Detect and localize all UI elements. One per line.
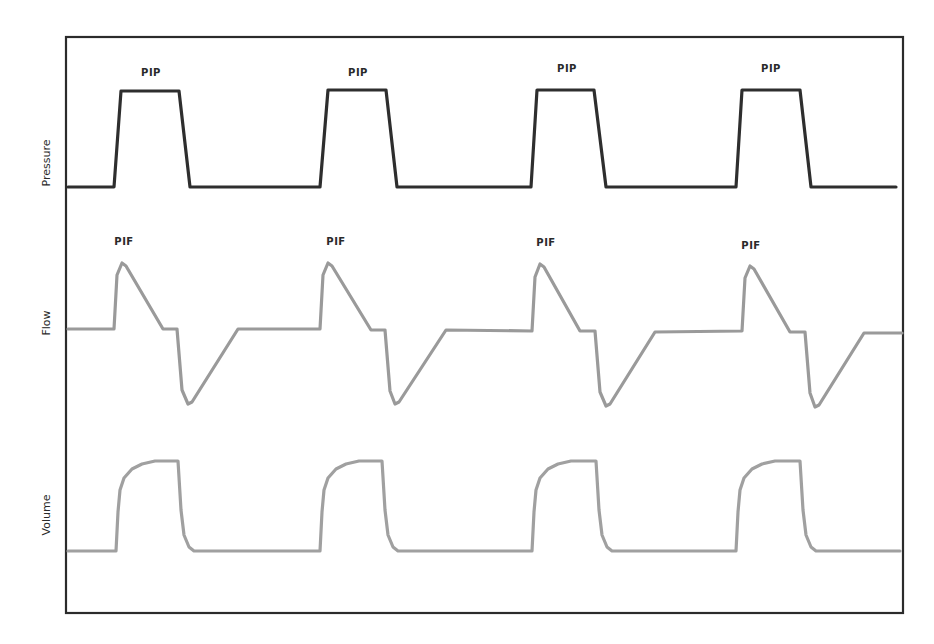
pressure-trace bbox=[68, 90, 896, 187]
volume-panel: Volume bbox=[40, 461, 900, 551]
chart-frame bbox=[66, 37, 903, 613]
pif-label: PIF bbox=[326, 236, 345, 247]
flow-trace bbox=[68, 263, 902, 407]
pip-label: PIP bbox=[557, 63, 577, 74]
pif-annotations: PIFPIFPIFPIF bbox=[114, 236, 760, 251]
pip-label: PIP bbox=[348, 67, 368, 78]
pif-label: PIF bbox=[114, 236, 133, 247]
pip-label: PIP bbox=[761, 63, 781, 74]
pif-label: PIF bbox=[741, 240, 760, 251]
volume-trace bbox=[68, 461, 900, 551]
flow-axis-label: Flow bbox=[40, 310, 53, 335]
ventilator-waveform-chart: Pressure PIPPIPPIPPIP Flow PIFPIFPIFPIF … bbox=[0, 0, 934, 644]
flow-panel: Flow PIFPIFPIFPIF bbox=[40, 236, 902, 407]
pip-annotations: PIPPIPPIPPIP bbox=[141, 63, 781, 78]
pip-label: PIP bbox=[141, 67, 161, 78]
pressure-axis-label: Pressure bbox=[40, 139, 53, 186]
pif-label: PIF bbox=[536, 237, 555, 248]
pressure-panel: Pressure PIPPIPPIPPIP bbox=[40, 63, 896, 187]
volume-axis-label: Volume bbox=[40, 494, 53, 535]
